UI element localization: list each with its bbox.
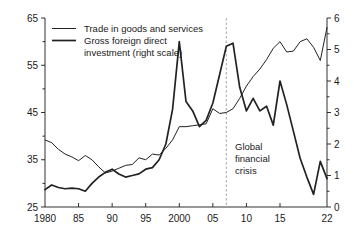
line-chart: Globalfinancialcrisis 198085909520000510… xyxy=(0,0,354,239)
x-tick-label: 05 xyxy=(207,213,219,224)
legend-label-1: Gross foreign direct xyxy=(84,35,167,46)
x-tick-label: 10 xyxy=(241,213,253,224)
legend-label-2: investment (right scale) xyxy=(84,47,182,58)
y-right-tick-label: 0 xyxy=(334,202,340,213)
x-tick-label: 95 xyxy=(140,213,152,224)
x-tick-label: 22 xyxy=(321,213,333,224)
y-right-tick-label: 5 xyxy=(334,44,340,55)
y-left-tick-label: 65 xyxy=(27,13,39,24)
chart-legend: Trade in goods and servicesGross foreign… xyxy=(52,23,203,58)
crisis-annotation-line: Global xyxy=(235,141,262,152)
legend-label-0: Trade in goods and services xyxy=(84,23,203,34)
y-left-tick-label: 25 xyxy=(27,202,39,213)
x-tick-label: 2000 xyxy=(168,213,191,224)
x-tick-label: 15 xyxy=(274,213,286,224)
y-left-tick-label: 35 xyxy=(27,154,39,165)
y-right-tick-label: 6 xyxy=(334,13,340,24)
y-right-tick-label: 2 xyxy=(334,139,340,150)
crisis-annotation-line: financial xyxy=(235,153,270,164)
x-tick-label: 90 xyxy=(107,213,119,224)
y-right-tick-label: 3 xyxy=(334,107,340,118)
y-right-tick-label: 1 xyxy=(334,170,340,181)
tick-labels: 198085909520000510152265554535256543210 xyxy=(27,13,340,225)
crisis-annotation-line: crisis xyxy=(235,165,257,176)
series-line-fdi xyxy=(45,42,327,195)
x-tick-label: 1980 xyxy=(34,213,57,224)
y-right-tick-label: 4 xyxy=(334,76,340,87)
x-tick-label: 85 xyxy=(73,213,85,224)
y-left-tick-label: 45 xyxy=(27,107,39,118)
plot-area: Globalfinancialcrisis 198085909520000510… xyxy=(27,13,340,225)
chart-figure: Globalfinancialcrisis 198085909520000510… xyxy=(0,0,354,239)
y-left-tick-label: 55 xyxy=(27,60,39,71)
